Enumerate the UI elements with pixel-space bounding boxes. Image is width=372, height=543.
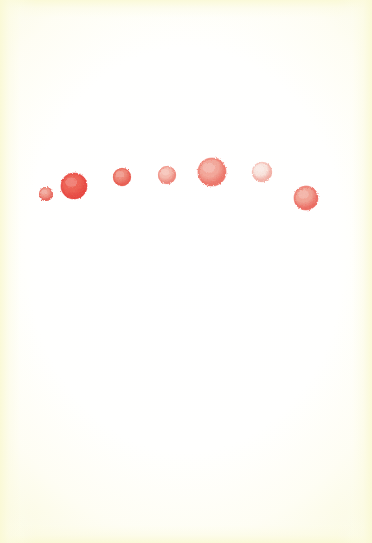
watercolor-dot	[252, 162, 272, 182]
dots-svg	[0, 0, 372, 543]
watercolor-dot	[294, 186, 318, 210]
watercolor-dot	[39, 187, 53, 201]
artwork-canvas	[0, 0, 372, 543]
watercolor-dot	[61, 173, 87, 199]
watercolor-dot	[158, 166, 176, 184]
watercolor-dot	[113, 168, 131, 186]
watercolor-dot	[198, 158, 226, 186]
dot-layer	[0, 0, 372, 543]
